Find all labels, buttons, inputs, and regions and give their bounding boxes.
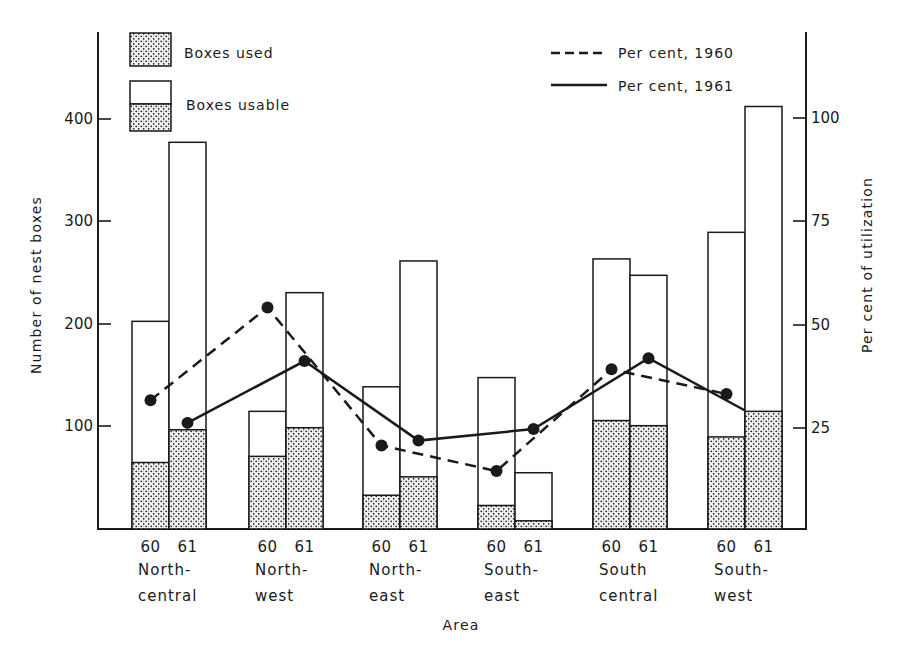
point-1960 bbox=[606, 363, 618, 375]
bar-used bbox=[478, 505, 515, 529]
year-label: 61 bbox=[638, 538, 658, 556]
bar-used bbox=[286, 428, 323, 529]
bar-groups bbox=[132, 107, 782, 529]
bar-group bbox=[132, 142, 206, 529]
bar-used bbox=[169, 430, 206, 529]
legend-swatch-usable-stippled bbox=[130, 104, 171, 131]
legend-label-usable: Boxes usable bbox=[186, 97, 290, 113]
year-label: 60 bbox=[140, 538, 160, 556]
point-1961 bbox=[413, 435, 425, 447]
y-tick-label: 200 bbox=[64, 315, 93, 333]
point-1961 bbox=[182, 417, 194, 429]
category-label: central bbox=[138, 587, 197, 605]
point-1960 bbox=[376, 440, 388, 452]
x-axis-title: Area bbox=[442, 617, 479, 633]
year-label: 61 bbox=[294, 538, 314, 556]
bar-used bbox=[515, 521, 552, 529]
category-label: North- bbox=[255, 561, 308, 579]
year-label: 61 bbox=[523, 538, 543, 556]
legend: Boxes used Boxes usable Per cent, 1960 P… bbox=[130, 33, 734, 131]
year-label: 60 bbox=[601, 538, 621, 556]
bar-group bbox=[593, 259, 667, 529]
bar-used bbox=[708, 437, 745, 529]
legend-swatch-usable-open bbox=[130, 81, 171, 104]
point-1960 bbox=[262, 302, 274, 314]
bar-used bbox=[249, 456, 286, 529]
y2-axis-title: Per cent of utilization bbox=[859, 177, 875, 353]
category-label: North- bbox=[369, 561, 422, 579]
point-1961 bbox=[299, 355, 311, 367]
point-1960 bbox=[491, 465, 503, 477]
bar-used bbox=[630, 426, 667, 529]
y-tick-label: 400 bbox=[64, 110, 93, 128]
y2-tick-label: 100 bbox=[811, 109, 840, 127]
category-label: South- bbox=[714, 561, 769, 579]
legend-label-1961: Per cent, 1961 bbox=[618, 78, 734, 94]
bar-used bbox=[132, 463, 169, 529]
y2-tick-label: 75 bbox=[811, 212, 830, 230]
y-tick-label: 300 bbox=[64, 212, 93, 230]
year-label: 60 bbox=[716, 538, 736, 556]
category-label: east bbox=[484, 587, 520, 605]
category-labels: 6061North-central6061North-west6061North… bbox=[138, 538, 774, 605]
bar-used bbox=[745, 411, 782, 529]
category-label: east bbox=[369, 587, 405, 605]
bar-group bbox=[708, 107, 782, 529]
y2-tick-label: 25 bbox=[811, 419, 830, 437]
legend-swatch-used bbox=[130, 33, 171, 66]
left-y-ticks: 100 200 300 400 bbox=[64, 110, 111, 435]
category-label: South- bbox=[484, 561, 539, 579]
y-tick-label: 100 bbox=[64, 417, 93, 435]
point-1961 bbox=[528, 423, 540, 435]
point-1961 bbox=[643, 352, 655, 364]
year-label: 60 bbox=[486, 538, 506, 556]
y-axis-title: Number of nest boxes bbox=[28, 196, 44, 374]
point-1960 bbox=[145, 394, 157, 406]
bar-used bbox=[363, 495, 400, 529]
year-label: 61 bbox=[177, 538, 197, 556]
bar-group bbox=[363, 261, 437, 529]
category-label: west bbox=[255, 587, 294, 605]
category-label: central bbox=[599, 587, 658, 605]
bar-used bbox=[593, 421, 630, 529]
y2-tick-label: 50 bbox=[811, 316, 830, 334]
year-label: 61 bbox=[408, 538, 428, 556]
bar-used bbox=[400, 477, 437, 529]
year-label: 61 bbox=[753, 538, 773, 556]
legend-label-1960: Per cent, 1960 bbox=[618, 45, 734, 61]
bar-group bbox=[249, 293, 323, 529]
category-label: South bbox=[599, 561, 648, 579]
year-label: 60 bbox=[371, 538, 391, 556]
category-label: west bbox=[714, 587, 753, 605]
category-label: North- bbox=[138, 561, 191, 579]
right-y-ticks: 25 50 75 100 bbox=[793, 109, 840, 437]
legend-label-used: Boxes used bbox=[184, 45, 274, 61]
nest-box-chart: 100 200 300 400 25 50 75 100 Number of n… bbox=[0, 0, 905, 652]
year-label: 60 bbox=[257, 538, 277, 556]
